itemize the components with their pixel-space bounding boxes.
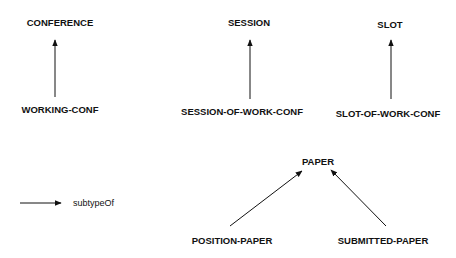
- node-position-paper: POSITION-PAPER: [192, 235, 273, 246]
- node-session: SESSION: [228, 17, 270, 28]
- node-slot-of-work-conf: SLOT-OF-WORK-CONF: [336, 108, 440, 119]
- subtype-diagram: CONFERENCE WORKING-CONF SESSION SESSION-…: [0, 0, 456, 258]
- node-session-of-work-conf: SESSION-OF-WORK-CONF: [181, 106, 303, 117]
- diagram-edges: [0, 0, 456, 258]
- node-slot: SLOT: [377, 19, 402, 30]
- node-submitted-paper: SUBMITTED-PAPER: [338, 235, 429, 246]
- legend-label: subtypeOf: [73, 198, 114, 208]
- edge-position-paper-to-paper: [230, 171, 302, 226]
- node-conference: CONFERENCE: [27, 17, 94, 28]
- node-working-conf: WORKING-CONF: [21, 104, 98, 115]
- node-paper: PAPER: [302, 156, 334, 167]
- edge-submitted-paper-to-paper: [331, 170, 386, 226]
